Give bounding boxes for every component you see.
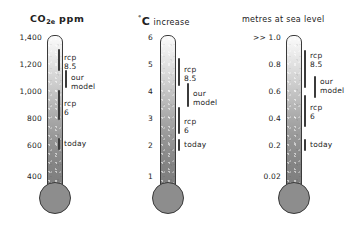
- marker-label: today: [310, 140, 332, 149]
- panel-title-sea-level: metres at sea level: [242, 15, 324, 24]
- scale-label-sea-level-0: >> 1.0: [238, 33, 281, 42]
- panel-title-co2e: CO2e ppm: [30, 13, 84, 26]
- marker-tick-icon: [178, 139, 180, 151]
- marker-label: rcp 6: [64, 99, 76, 117]
- scale-label-co2e-4: 600: [2, 141, 42, 150]
- panel-co2e: CO2e ppm 1,400 1,200 1,000 800 600 400 r…: [0, 0, 120, 233]
- scale-label-temperature-3: 3: [120, 114, 153, 123]
- thermometer-bulb-co2e: [39, 182, 71, 214]
- marker-tick-icon: [304, 50, 306, 88]
- scale-label-sea-level-2: 0.6: [238, 87, 281, 96]
- thermometer-bulb-temperature: [152, 182, 184, 214]
- panel-title-temperature: °Cincrease: [138, 14, 190, 28]
- marker-tick-icon: [304, 139, 306, 151]
- marker-tick-icon: [187, 83, 189, 107]
- panel-title-temperature-trail: increase: [154, 18, 190, 27]
- thermometer-tube-temperature: [160, 35, 176, 189]
- scale-label-co2e-0: 1,400: [2, 33, 42, 42]
- scale-label-sea-level-1: 0.8: [238, 60, 281, 69]
- marker-label: rcp 8.5: [64, 53, 77, 71]
- marker-tick-icon: [65, 70, 67, 88]
- thermometer-figure: CO2e ppm 1,400 1,200 1,000 800 600 400 r…: [0, 0, 358, 233]
- marker-label: today: [184, 140, 206, 149]
- scale-label-temperature-5: 1: [120, 172, 153, 181]
- scale-label-sea-level-5: 0.02: [238, 172, 281, 181]
- marker-tick-icon: [178, 107, 180, 134]
- scale-label-co2e-1: 1,200: [2, 60, 42, 69]
- marker-label: our model: [320, 77, 344, 95]
- thermometer-tube-co2e: [47, 35, 63, 189]
- scale-label-co2e-2: 1,000: [2, 87, 42, 96]
- scale-label-sea-level-3: 0.4: [238, 114, 281, 123]
- marker-tick-icon: [314, 76, 316, 98]
- marker-label: rcp 8.5: [184, 65, 197, 83]
- scale-label-temperature-4: 2: [120, 141, 153, 150]
- marker-label: our model: [193, 89, 217, 107]
- thermometer-tube-sea-level: [286, 35, 302, 189]
- marker-label: our model: [71, 73, 95, 91]
- marker-tick-icon: [178, 58, 180, 86]
- panel-title-co2e-trail: ppm: [55, 13, 84, 24]
- scale-label-temperature-2: 4: [120, 87, 153, 96]
- panel-title-temperature-lead: C: [142, 15, 151, 28]
- marker-tick-icon: [58, 138, 60, 150]
- marker-label: rcp 6: [184, 117, 196, 135]
- scale-label-sea-level-4: 0.2: [238, 141, 281, 150]
- marker-tick-icon: [304, 95, 306, 127]
- marker-label: rcp 6: [310, 103, 322, 121]
- panel-sea-level: metres at sea level >> 1.0 0.8 0.6 0.4 0…: [238, 0, 358, 233]
- panel-title-co2e-lead: CO: [30, 13, 46, 24]
- scale-label-temperature-0: 6: [120, 33, 153, 42]
- scale-label-co2e-3: 800: [2, 114, 42, 123]
- scale-label-temperature-1: 5: [120, 60, 153, 69]
- scale-label-co2e-5: 400: [2, 172, 42, 181]
- thermometer-bulb-sea-level: [278, 182, 310, 214]
- marker-tick-icon: [58, 90, 60, 120]
- panel-temperature: °Cincrease 6 5 4 3 2 1 rcp 8.5 our model…: [120, 0, 238, 233]
- panel-title-co2e-sub: 2e: [46, 18, 55, 26]
- marker-label: rcp 8.5: [310, 51, 323, 69]
- marker-label: today: [64, 139, 86, 148]
- marker-tick-icon: [58, 49, 60, 71]
